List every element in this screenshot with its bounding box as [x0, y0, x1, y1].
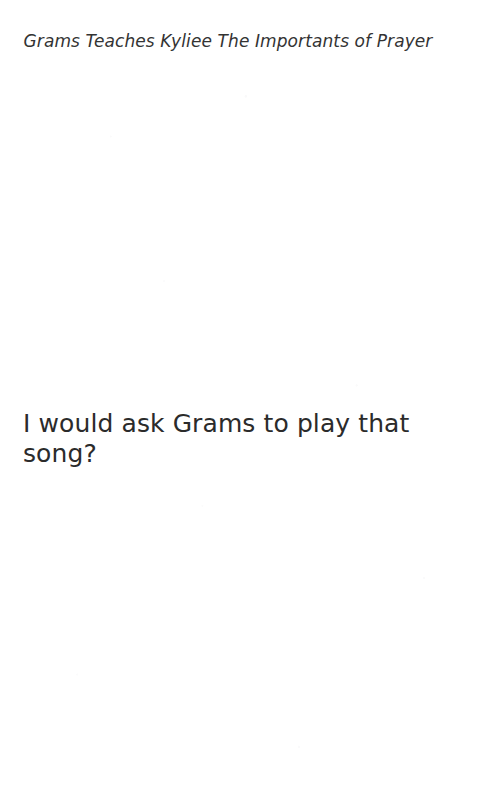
- running-head-title: Grams Teaches Kyliee The Importants of P…: [0, 30, 482, 52]
- scan-noise-texture: [0, 0, 482, 803]
- body-paragraph: I would ask Grams to play that song?: [23, 409, 452, 469]
- body-text-block: I would ask Grams to play that song?: [23, 409, 452, 469]
- document-page: Grams Teaches Kyliee The Importants of P…: [0, 0, 482, 803]
